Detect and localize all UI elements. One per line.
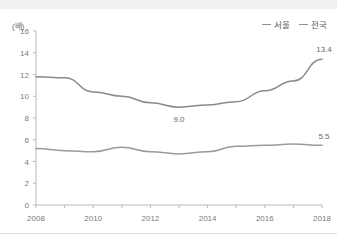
y-tick-label: 12: [20, 71, 29, 80]
data-label: 5.5: [318, 132, 330, 141]
data-label: 13.4: [316, 45, 332, 54]
bottom-divider: [0, 233, 337, 234]
y-axis-ticks: 0246810121416: [20, 27, 36, 210]
line-chart-plot: 0246810121416 200820102012201420162018 1…: [0, 9, 337, 233]
data-label: 9.0: [173, 115, 185, 124]
y-tick-label: 14: [20, 49, 29, 58]
x-tick-label: 2016: [256, 214, 274, 223]
y-tick-label: 8: [25, 114, 30, 123]
chart-figure: (배) 서울 전국 0246810121416 2008201020122014…: [0, 9, 337, 233]
x-tick-label: 2012: [142, 214, 160, 223]
series-line-seoul: [36, 59, 322, 107]
y-tick-label: 2: [25, 179, 30, 188]
y-tick-label: 6: [25, 136, 30, 145]
x-tick-label: 2018: [313, 214, 331, 223]
y-tick-label: 10: [20, 92, 29, 101]
top-band: [0, 0, 337, 9]
x-tick-label: 2014: [199, 214, 217, 223]
y-tick-label: 16: [20, 27, 29, 36]
x-axis-ticks: 200820102012201420162018: [27, 205, 331, 223]
y-tick-label: 4: [25, 158, 30, 167]
y-tick-label: 0: [25, 201, 30, 210]
series-line-nationwide: [36, 144, 322, 154]
data-series-group: [36, 59, 322, 154]
data-labels-group: 13.49.05.5: [173, 45, 332, 141]
x-tick-label: 2008: [27, 214, 45, 223]
x-tick-label: 2010: [84, 214, 102, 223]
